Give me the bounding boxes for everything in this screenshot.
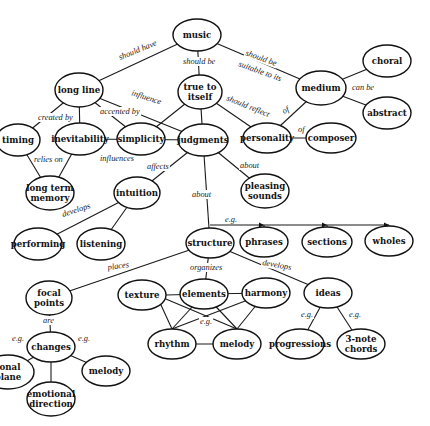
node-long-line[interactable]: long line bbox=[55, 73, 103, 107]
edge-label: e.g. bbox=[200, 317, 212, 326]
edge-label: affects bbox=[147, 162, 169, 171]
node-medium[interactable]: medium bbox=[296, 71, 346, 105]
node-label: personality bbox=[240, 133, 295, 143]
node-progressions[interactable]: progressions bbox=[269, 329, 331, 359]
node-judgments[interactable]: judgments bbox=[177, 124, 229, 156]
edge-label: about bbox=[240, 161, 260, 170]
node-melody-b[interactable]: melody bbox=[82, 356, 130, 386]
node-label: memory bbox=[31, 193, 71, 203]
node-label: itself bbox=[188, 92, 214, 102]
node-label: music bbox=[183, 30, 212, 40]
node-label: wholes bbox=[372, 236, 406, 246]
node-label: judgments bbox=[177, 135, 229, 145]
node-intuition[interactable]: intuition bbox=[114, 177, 160, 209]
node-texture[interactable]: texture bbox=[118, 280, 166, 310]
node-true-to-itself[interactable]: true toitself bbox=[178, 75, 222, 109]
node-label: tonal bbox=[0, 362, 21, 372]
edge-label: relies on bbox=[34, 155, 63, 164]
node-label: listening bbox=[80, 239, 123, 249]
node-label: simplicity bbox=[117, 134, 165, 144]
node-label: performing bbox=[11, 239, 66, 249]
edge-label: are bbox=[43, 316, 54, 325]
edge-label: e.g. bbox=[78, 334, 90, 343]
node-label: chords bbox=[345, 344, 378, 354]
node-label: choral bbox=[372, 56, 403, 66]
node-personality[interactable]: personality bbox=[240, 123, 295, 153]
node-label: 3-note bbox=[346, 334, 377, 344]
node-wholes[interactable]: wholes bbox=[365, 226, 413, 256]
node-label: true to bbox=[184, 82, 217, 92]
node-inevitability[interactable]: inevitability bbox=[51, 123, 110, 155]
node-label: harmony bbox=[245, 288, 288, 298]
node-label: sections bbox=[307, 237, 347, 247]
edge-label: influence bbox=[130, 88, 162, 106]
node-melody-a[interactable]: melody bbox=[213, 329, 261, 359]
node-label: elements bbox=[182, 289, 226, 299]
node-emotional-direction[interactable]: emotionaldirection bbox=[27, 382, 76, 416]
node-performing[interactable]: performing bbox=[11, 228, 66, 260]
edge-label: should reflect bbox=[225, 94, 271, 120]
node-label: melody bbox=[220, 339, 256, 349]
edge-label: places bbox=[106, 260, 129, 272]
node-timing[interactable]: timing bbox=[0, 124, 40, 156]
node-label: medium bbox=[301, 83, 340, 93]
edge-label: influences bbox=[100, 154, 134, 163]
edge-label: about bbox=[192, 190, 212, 199]
edge-label: should be bbox=[183, 57, 216, 66]
node-harmony[interactable]: harmony bbox=[242, 278, 290, 308]
node-label: abstract bbox=[367, 108, 407, 118]
node-label: rhythm bbox=[154, 339, 189, 349]
node-label: progressions bbox=[269, 339, 331, 349]
concept-map: should haveshould beshould besuitable to… bbox=[0, 0, 430, 426]
node-label: sounds bbox=[248, 191, 282, 201]
edge-label: e.g. bbox=[225, 215, 237, 224]
node-abstract[interactable]: abstract bbox=[363, 97, 411, 129]
edge-label: e.g. bbox=[301, 310, 313, 319]
node-phrases[interactable]: phrases bbox=[240, 227, 288, 257]
node-focal-points[interactable]: focalpoints bbox=[26, 281, 72, 315]
edge-label: can be bbox=[352, 83, 374, 92]
node-label: inevitability bbox=[51, 134, 110, 144]
node-label: direction bbox=[29, 399, 73, 409]
node-label: long term bbox=[26, 183, 73, 193]
edge-label: develops bbox=[262, 258, 292, 272]
edge-label: created by bbox=[38, 113, 73, 122]
node-elements[interactable]: elements bbox=[180, 279, 228, 309]
node-listening[interactable]: listening bbox=[77, 228, 125, 260]
node-choral[interactable]: choral bbox=[363, 45, 411, 77]
edge-label: should have bbox=[117, 38, 158, 62]
node-label: long line bbox=[58, 85, 101, 95]
node-music[interactable]: music bbox=[173, 19, 221, 51]
node-label: plane bbox=[0, 372, 22, 382]
node-label: intuition bbox=[116, 188, 159, 198]
node-label: emotional bbox=[27, 389, 76, 399]
node-label: ideas bbox=[315, 288, 340, 298]
node-composer[interactable]: composer bbox=[306, 123, 356, 153]
node-label: points bbox=[34, 298, 64, 308]
node-label: pleasing bbox=[245, 181, 286, 191]
node-changes[interactable]: changes bbox=[27, 332, 75, 362]
node-rhythm[interactable]: rhythm bbox=[148, 329, 196, 359]
edge-label: e.g. bbox=[12, 334, 24, 343]
node-label: focal bbox=[37, 288, 61, 298]
node-three-note-chords[interactable]: 3-notechords bbox=[337, 329, 385, 359]
edge-label: organizes bbox=[190, 263, 222, 272]
node-label: texture bbox=[125, 290, 160, 300]
node-label: melody bbox=[89, 366, 125, 376]
node-label: phrases bbox=[245, 237, 283, 247]
node-simplicity[interactable]: simplicity bbox=[117, 123, 166, 155]
node-structure[interactable]: structure bbox=[186, 228, 234, 258]
edge-label: e.g. bbox=[349, 310, 361, 319]
node-label: timing bbox=[2, 135, 34, 145]
node-label: structure bbox=[187, 238, 233, 248]
node-ideas[interactable]: ideas bbox=[304, 278, 352, 308]
node-label: changes bbox=[31, 342, 71, 352]
node-pleasing-sounds[interactable]: pleasingsounds bbox=[241, 174, 289, 208]
node-sections[interactable]: sections bbox=[302, 227, 352, 257]
nodes-layer: musiclong linetrue toitselfmediumchorala… bbox=[0, 19, 413, 416]
node-long-term-memory[interactable]: long termmemory bbox=[26, 176, 74, 210]
edge-label: accented by bbox=[100, 107, 140, 116]
node-label: composer bbox=[308, 133, 355, 143]
